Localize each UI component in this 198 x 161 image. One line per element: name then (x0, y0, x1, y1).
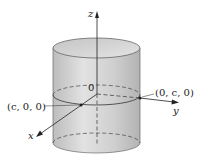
z-axis-label: z (87, 8, 94, 19)
point-0c0 (138, 96, 141, 99)
x-axis-label: x (28, 130, 34, 141)
leader-0c0 (142, 94, 154, 97)
point-0c0-label: (0, c, 0) (155, 87, 194, 98)
y-axis (140, 98, 174, 102)
cylinder-top (53, 38, 140, 58)
point-c00 (79, 103, 82, 106)
origin-label: 0 (88, 82, 94, 93)
cylinder-body (53, 48, 140, 153)
x-axis-arrow-icon (36, 131, 43, 138)
y-axis-label: y (172, 105, 179, 116)
cylinder-diagram: z y x 0 (c, 0, 0) (0, c, 0) (0, 0, 198, 161)
z-axis-arrow-icon (95, 11, 99, 18)
y-axis-arrow-icon (172, 100, 180, 105)
point-c00-label: (c, 0, 0) (7, 101, 46, 112)
